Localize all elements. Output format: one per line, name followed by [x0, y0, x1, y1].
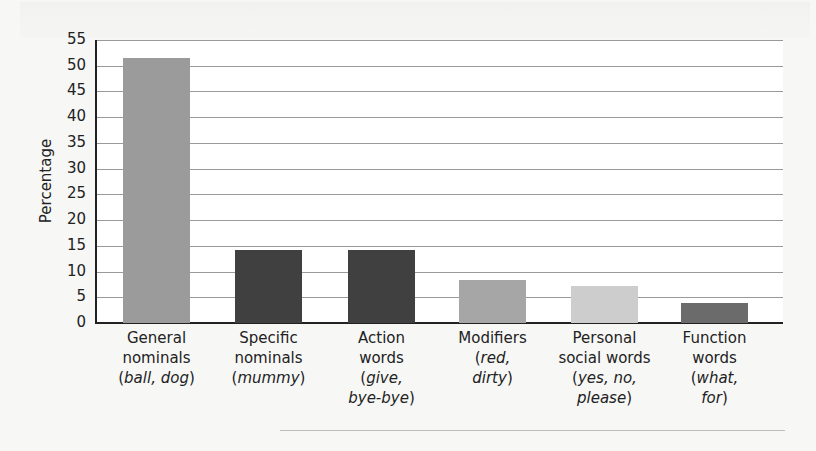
y-tick-label: 15 [50, 237, 86, 253]
bottom-rule [280, 430, 785, 431]
gridline [95, 91, 783, 92]
plot-area [95, 40, 783, 323]
bar [681, 303, 748, 323]
page-background-bleed [20, 2, 810, 38]
y-tick-label: 25 [50, 185, 86, 201]
x-axis-line [95, 322, 783, 324]
x-category-label: Modifiers(red,dirty) [428, 328, 558, 388]
y-tick-label: 5 [50, 288, 86, 304]
y-tick-label: 50 [50, 57, 86, 73]
y-tick-label: 45 [50, 82, 86, 98]
y-tick-label: 10 [50, 263, 86, 279]
bar [571, 286, 638, 323]
bar [348, 250, 415, 323]
x-category-label: Generalnominals(ball, dog) [92, 328, 222, 388]
bar [459, 280, 526, 323]
gridline [95, 297, 783, 298]
gridline [95, 194, 783, 195]
y-axis-line [95, 40, 97, 324]
gridline [95, 272, 783, 273]
y-tick-label: 35 [50, 134, 86, 150]
x-category-label: Specificnominals(mummy) [204, 328, 334, 388]
gridline [95, 169, 783, 170]
y-tick-label: 20 [50, 211, 86, 227]
gridline [95, 66, 783, 67]
bar [235, 250, 302, 323]
gridline [95, 246, 783, 247]
gridline [95, 220, 783, 221]
y-tick-label: 0 [50, 314, 86, 330]
x-category-label: Functionwords(what,for) [650, 328, 780, 408]
bar [123, 58, 190, 323]
y-tick-label: 40 [50, 108, 86, 124]
y-axis-label: Percentage [37, 139, 55, 223]
gridline [95, 40, 783, 41]
gridline [95, 117, 783, 118]
y-tick-label: 55 [50, 31, 86, 47]
y-tick-label: 30 [50, 160, 86, 176]
gridline [95, 143, 783, 144]
